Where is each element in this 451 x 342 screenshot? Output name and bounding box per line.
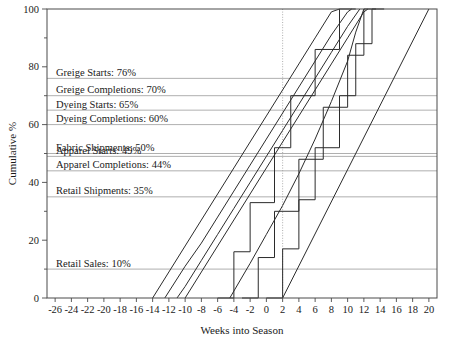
milestone-label-greige-starts: Greige Starts: 76% [56,67,136,78]
y-axis-title: Cumulative % [6,122,18,185]
milestone-label-dyeing-completions: Dyeing Completions: 60% [56,113,168,124]
y-tick-label: 20 [29,235,40,246]
x-tick-label: -10 [178,304,192,315]
x-tick-label: 6 [313,304,318,315]
x-tick-label: 10 [342,304,353,315]
x-tick-label: -16 [129,304,143,315]
milestone-label-apparel-starts: Apparel Starts: 49% [56,145,141,156]
x-tick-label: -2 [246,304,255,315]
x-tick-label: 8 [329,304,334,315]
x-tick-label: 4 [296,304,302,315]
y-tick-label: 80 [29,61,40,72]
x-tick-label: -8 [197,304,206,315]
x-axis-title: Weeks into Season [201,324,284,336]
chart-container: -26-24-22-20-18-16-14-12-10-8-6-4-202468… [0,0,451,342]
x-tick-label: 2 [280,304,285,315]
cumulative-percentage-chart: -26-24-22-20-18-16-14-12-10-8-6-4-202468… [0,0,451,342]
x-tick-label: -4 [230,304,239,315]
x-tick-label: 18 [407,304,418,315]
x-tick-label: -12 [162,304,176,315]
y-tick-label: 60 [29,119,40,130]
x-tick-label: -20 [97,304,111,315]
y-tick-label: 0 [34,293,39,304]
x-tick-label: -24 [64,304,79,315]
milestone-label-greige-completions: Greige Completions: 70% [56,84,166,95]
y-tick-label: 100 [23,4,39,15]
x-tick-label: 12 [359,304,370,315]
milestone-label-apparel-completions: Apparel Completions: 44% [56,159,171,170]
x-tick-label: -14 [146,304,161,315]
x-tick-label: 16 [391,304,402,315]
milestone-label-retail-shipments: Retail Shipments: 35% [56,185,153,196]
x-tick-label: -22 [81,304,95,315]
x-tick-label: -26 [48,304,62,315]
x-tick-label: 20 [424,304,435,315]
x-tick-label: 0 [264,304,269,315]
x-tick-label: -6 [213,304,222,315]
milestone-label-dyeing-starts: Dyeing Starts: 65% [56,99,138,110]
milestone-label-retail-sales: Retail Sales: 10% [56,258,131,269]
x-tick-label: -18 [113,304,127,315]
x-tick-label: 14 [375,304,386,315]
y-tick-label: 40 [29,177,40,188]
